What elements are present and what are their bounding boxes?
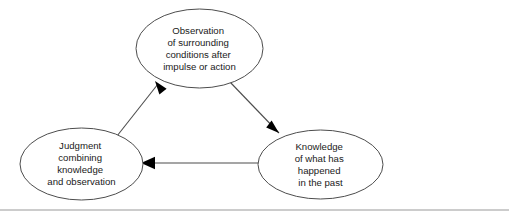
node-knowledge-line-3: happened xyxy=(298,164,341,175)
node-knowledge-line-4: in the past xyxy=(298,176,343,187)
edge-knowledge-to-judgment xyxy=(141,157,258,169)
node-knowledge-line-2: of what has xyxy=(295,152,344,163)
edge-line-judgment-observation xyxy=(117,84,158,136)
node-observation-line-2: of surrounding xyxy=(167,36,228,47)
node-judgment-line-3: knowledge xyxy=(57,164,103,175)
diagram-canvas: Observation of surrounding conditions af… xyxy=(0,0,509,217)
node-observation-line-4: impulse or action xyxy=(163,60,236,71)
edge-observation-to-knowledge xyxy=(229,81,279,133)
cycle-diagram: Observation of surrounding conditions af… xyxy=(0,0,509,217)
node-knowledge-label: Knowledge of what has happened in the pa… xyxy=(295,140,347,187)
node-observation[interactable]: Observation of surrounding conditions af… xyxy=(136,9,263,88)
node-knowledge-line-1: Knowledge xyxy=(295,140,342,151)
node-observation-line-3: conditions after xyxy=(166,48,232,59)
node-judgment[interactable]: Judgment combining knowledge and observa… xyxy=(20,128,143,200)
node-knowledge[interactable]: Knowledge of what has happened in the pa… xyxy=(258,130,383,199)
node-observation-line-1: Observation xyxy=(172,24,224,35)
node-judgment-line-2: combining xyxy=(58,152,102,163)
node-judgment-line-1: Judgment xyxy=(59,140,101,151)
arrowhead-observation xyxy=(155,81,167,95)
node-judgment-line-4: and observation xyxy=(47,176,115,187)
edge-judgment-to-observation xyxy=(117,81,167,136)
node-observation-label: Observation of surrounding conditions af… xyxy=(163,24,236,71)
